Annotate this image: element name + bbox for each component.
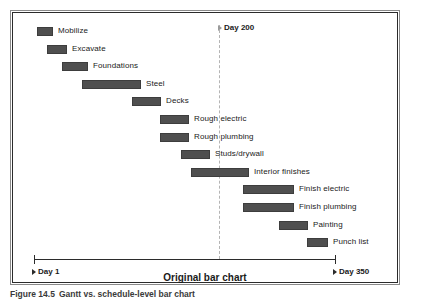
gantt-bar-label: Steel [146,78,165,89]
gantt-bar-label: Studs/drywall [215,148,264,159]
figure-caption-number: Figure 14.5 [10,289,55,299]
gantt-bar-label: Rough electric [194,113,247,124]
gantt-chart-plot: Day 200 MobilizeExcavateFoundationsSteel… [11,11,399,284]
gantt-bar-label: Painting [313,219,343,230]
gantt-bar-label: Finish electric [299,183,349,194]
chart-title: Original bar chart [11,272,399,283]
gantt-bar-label: Interior finishes [254,166,310,177]
gantt-bar[interactable] [47,45,67,54]
gantt-bar[interactable] [243,203,294,212]
axis-tick-start [34,255,35,264]
timeline-axis-line [34,259,335,260]
axis-tick-end [335,255,336,264]
gantt-bar[interactable] [132,97,161,106]
gantt-bar[interactable] [160,115,189,124]
figure-caption: Figure 14.5Gantt vs. schedule-level bar … [10,289,195,299]
gantt-bar[interactable] [37,27,53,36]
gantt-bar[interactable] [307,238,328,247]
gantt-bar[interactable] [191,168,249,177]
gantt-bar-label: Punch list [333,236,369,247]
gantt-bar-label: Finish plumbing [299,201,357,212]
gantt-bar[interactable] [160,133,189,142]
day-200-marker-label: Day 200 [218,23,254,32]
gantt-bar-label: Mobilize [58,25,88,36]
day-200-marker-line [219,25,220,259]
gantt-bar[interactable] [82,80,141,89]
gantt-bar-label: Decks [166,95,189,106]
gantt-bar-label: Rough plumbing [194,131,254,142]
gantt-bar[interactable] [279,221,308,230]
gantt-bar[interactable] [62,62,88,71]
gantt-bar-label: Foundations [93,60,138,71]
gantt-bar[interactable] [243,185,294,194]
gantt-bar-label: Excavate [72,43,106,54]
day-200-marker-text: Day 200 [224,23,254,32]
figure-caption-text: Gantt vs. schedule-level bar chart [59,289,195,299]
gantt-bar[interactable] [181,150,210,159]
figure-frame: Day 200 MobilizeExcavateFoundationsSteel… [10,10,400,285]
triangle-right-icon [218,25,222,31]
